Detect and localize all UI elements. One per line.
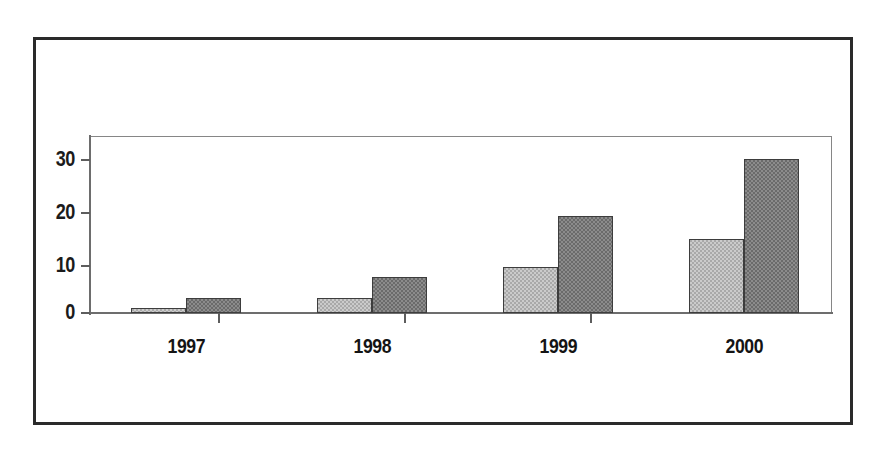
x-separator-1 [218, 313, 220, 323]
bar-2000-series-1[interactable] [689, 239, 744, 313]
x-axis-label-2000: 2000 [689, 334, 799, 358]
x-separator-3 [590, 313, 592, 323]
bar-1998-series-2[interactable] [372, 277, 427, 313]
x-axis-label-1999-text: 1999 [539, 334, 577, 358]
bar-1997-series-2[interactable] [186, 298, 241, 313]
bar-1997-series-1[interactable] [131, 308, 186, 313]
x-axis-label-2000-text: 2000 [725, 334, 763, 358]
bar-1999-series-2[interactable] [558, 216, 613, 313]
bar-group-1998 [317, 0, 427, 313]
x-axis-label-1997-text: 1997 [167, 334, 205, 358]
x-axis-label-1998-text: 1998 [353, 334, 391, 358]
bar-1999-series-1[interactable] [503, 267, 558, 313]
bar-1998-series-1[interactable] [317, 298, 372, 313]
bar-group-1999 [503, 0, 613, 313]
bar-2000-series-2[interactable] [744, 159, 799, 313]
chart-canvas: 30 20 10 0 1997 1998 1999 2000 [0, 0, 884, 461]
x-axis-label-1998: 1998 [317, 334, 427, 358]
bar-group-2000 [689, 0, 799, 313]
x-separator-2 [404, 313, 406, 323]
x-axis-label-1999: 1999 [503, 334, 613, 358]
x-axis-label-1997: 1997 [131, 334, 241, 358]
bars-layer [0, 0, 884, 313]
bar-group-1997 [131, 0, 241, 313]
